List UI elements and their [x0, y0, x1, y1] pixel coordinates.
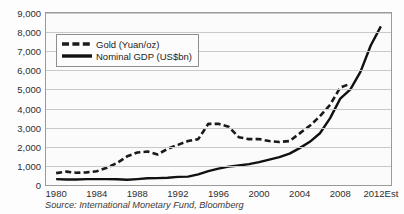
y-tick-label: 2,000 — [17, 141, 41, 152]
gridline — [46, 147, 391, 148]
source-note: Source: International Monetary Fund, Blo… — [45, 200, 244, 210]
gridline — [46, 109, 391, 110]
chart-title: Gold and China's Nominal GDP — [0, 0, 404, 3]
dashed-line-swatch-icon — [62, 39, 92, 49]
y-tick-label: 9,000 — [17, 8, 41, 19]
y-tick-label: 0 — [36, 180, 41, 191]
legend-item-gold: Gold (Yuan/oz) — [62, 38, 192, 50]
y-tick-label: 1,000 — [17, 160, 41, 171]
y-tick-label: 7,000 — [17, 46, 41, 57]
legend-label-gold: Gold (Yuan/oz) — [96, 39, 159, 50]
x-tick-label: 2004 — [289, 188, 310, 199]
x-tick-label: 1996 — [208, 188, 229, 199]
gridline — [46, 32, 391, 33]
legend-label-gdp: Nominal GDP (US$bn) — [96, 51, 192, 62]
x-tick-label: 1980 — [46, 188, 67, 199]
y-tick-label: 4,000 — [17, 103, 41, 114]
x-tick-label: 1988 — [127, 188, 148, 199]
chart-legend: Gold (Yuan/oz) Nominal GDP (US$bn) — [56, 34, 199, 67]
y-tick-label: 3,000 — [17, 122, 41, 133]
x-tick-label: 2008 — [330, 188, 351, 199]
y-tick-label: 8,000 — [17, 27, 41, 38]
gridline — [46, 89, 391, 90]
x-tick-label: 2012Est — [363, 188, 398, 199]
legend-item-gdp: Nominal GDP (US$bn) — [62, 50, 192, 62]
chart-figure: Gold and China's Nominal GDP 01,0002,000… — [0, 0, 404, 214]
y-axis-tick-labels: 01,0002,0003,0004,0005,0006,0007,0008,00… — [0, 12, 41, 186]
gridline — [46, 13, 391, 14]
gridline — [46, 128, 391, 129]
gridline — [46, 70, 391, 71]
x-tick-label: 1992 — [167, 188, 188, 199]
y-tick-label: 6,000 — [17, 65, 41, 76]
x-tick-label: 2000 — [249, 188, 270, 199]
y-tick-label: 5,000 — [17, 84, 41, 95]
gridline — [46, 166, 391, 167]
solid-line-swatch-icon — [62, 51, 92, 61]
x-tick-label: 1984 — [86, 188, 107, 199]
